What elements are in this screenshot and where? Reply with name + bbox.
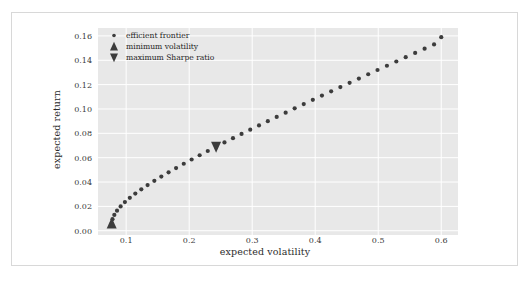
- data-point: [248, 128, 252, 132]
- y-tick-label: 0.14: [52, 56, 92, 65]
- data-point: [413, 51, 417, 55]
- data-point: [375, 68, 379, 72]
- y-tick-label: 0.02: [52, 202, 92, 211]
- triangle-up-icon: [108, 41, 120, 52]
- x-tick-label: 0.4: [295, 236, 335, 245]
- data-point: [275, 115, 279, 119]
- data-point: [198, 153, 202, 157]
- data-point: [385, 64, 389, 68]
- legend-item-efficient-frontier: efficient frontier: [104, 30, 236, 41]
- legend-label-maximum-sharpe-ratio: maximum Sharpe ratio: [126, 52, 214, 63]
- data-point: [266, 119, 270, 123]
- legend-item-maximum-sharpe-ratio: maximum Sharpe ratio: [104, 52, 236, 63]
- y-tick-label: 0.12: [52, 81, 92, 90]
- data-point: [338, 85, 342, 89]
- data-point: [166, 170, 170, 174]
- data-point: [128, 196, 132, 200]
- dot-icon: [108, 30, 120, 41]
- x-tick-label: 0.6: [421, 236, 461, 245]
- data-point: [311, 98, 315, 102]
- data-point: [112, 213, 116, 217]
- data-point: [357, 76, 361, 80]
- data-point: [123, 200, 127, 204]
- data-point: [257, 123, 261, 127]
- y-tick-label: 0.16: [52, 32, 92, 41]
- data-point: [348, 81, 352, 85]
- x-tick-label: 0.3: [232, 236, 272, 245]
- data-point: [423, 47, 427, 51]
- y-tick-label: 0.08: [52, 129, 92, 138]
- data-point: [152, 179, 156, 183]
- data-point: [239, 132, 243, 136]
- x-tick-label: 0.2: [169, 236, 209, 245]
- data-point: [159, 174, 163, 178]
- data-point: [439, 35, 443, 39]
- data-point: [145, 183, 149, 187]
- data-point: [302, 102, 306, 106]
- y-tick-label: 0.04: [52, 178, 92, 187]
- x-tick-label: 0.1: [106, 236, 146, 245]
- x-tick-label: 0.5: [358, 236, 398, 245]
- legend-item-minimum-volatility: minimum volatility: [104, 41, 236, 52]
- data-point: [366, 72, 370, 76]
- data-point: [394, 59, 398, 63]
- data-point: [293, 106, 297, 110]
- data-point: [404, 55, 408, 59]
- data-point: [182, 162, 186, 166]
- data-point: [231, 136, 235, 140]
- data-point: [133, 192, 137, 196]
- data-point: [284, 111, 288, 115]
- y-tick-label: 0.06: [52, 154, 92, 163]
- data-point: [174, 166, 178, 170]
- y-tick-label: 0.00: [52, 227, 92, 236]
- data-point: [222, 140, 226, 144]
- triangle-down-icon: [108, 52, 120, 63]
- data-point: [139, 187, 143, 191]
- data-point: [329, 89, 333, 93]
- y-tick-label: 0.10: [52, 105, 92, 114]
- data-point: [432, 42, 436, 46]
- data-point: [206, 149, 210, 153]
- data-point: [119, 204, 123, 208]
- x-axis-label: expected volatility: [0, 246, 530, 257]
- data-point: [190, 157, 194, 161]
- chart-legend: efficient frontier minimum volatility ma…: [104, 30, 236, 64]
- data-point: [115, 209, 119, 213]
- legend-label-efficient-frontier: efficient frontier: [126, 30, 189, 41]
- legend-label-minimum-volatility: minimum volatility: [126, 41, 198, 52]
- data-point: [320, 93, 324, 97]
